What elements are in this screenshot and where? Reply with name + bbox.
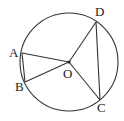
label-point-b: B: [15, 79, 24, 94]
center-dot-o: [67, 60, 70, 63]
label-point-d: D: [95, 4, 104, 19]
label-point-c: C: [97, 100, 106, 115]
label-point-o: O: [63, 66, 72, 81]
segment-oc: [69, 62, 100, 100]
segment-cd: [96, 22, 100, 100]
segments: [22, 22, 100, 100]
circle-diagram: ABCDO: [0, 0, 124, 121]
segment-oa: [22, 53, 69, 62]
segment-od: [69, 22, 96, 62]
label-point-a: A: [9, 45, 19, 60]
